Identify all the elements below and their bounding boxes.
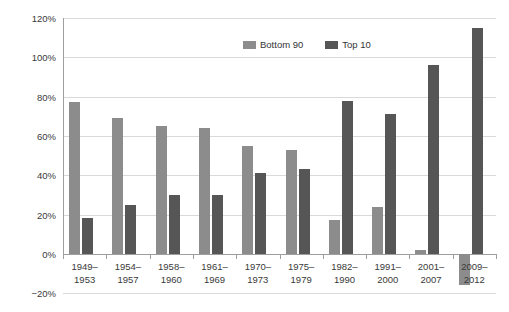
- x-tick-label-line: 1953: [63, 273, 106, 286]
- x-tick-label: 2009–2012: [453, 260, 496, 286]
- bar-top-10: [342, 101, 353, 254]
- x-axis-tick: [280, 254, 281, 259]
- x-tick-label: 2001–2007: [409, 260, 452, 286]
- x-tick-label: 1961–1969: [193, 260, 236, 286]
- bar-group: [280, 18, 323, 293]
- y-tick-label: 80%: [8, 92, 56, 103]
- bar-group: [193, 18, 236, 293]
- y-tick-label: 0%: [8, 249, 56, 260]
- x-tick-label-line: 2001–: [409, 260, 452, 273]
- bar-bottom-90: [199, 128, 210, 254]
- x-axis-tick: [150, 254, 151, 259]
- bar-top-10: [428, 65, 439, 254]
- bar-chart: 120% 100% 80% 60% 40% 20% 0% −20% Bottom…: [0, 0, 509, 312]
- y-tick-label: 100%: [8, 52, 56, 63]
- y-tick-label: 120%: [8, 13, 56, 24]
- bar-group: [106, 18, 149, 293]
- x-tick-label-line: 2000: [366, 273, 409, 286]
- x-tick-label-line: 2007: [409, 273, 452, 286]
- x-axis-tick: [366, 254, 367, 259]
- bar-group: [323, 18, 366, 293]
- x-axis-tick: [453, 254, 454, 259]
- x-tick-label: 1975–1979: [280, 260, 323, 286]
- x-tick-label: 1949–1953: [63, 260, 106, 286]
- x-tick-label-line: 1975–: [280, 260, 323, 273]
- y-tick-label: −20%: [8, 288, 56, 299]
- bar-top-10: [472, 28, 483, 254]
- bar-series-layer: [63, 18, 496, 293]
- x-tick-label-line: 1969: [193, 273, 236, 286]
- bar-bottom-90: [286, 150, 297, 254]
- bar-top-10: [255, 173, 266, 254]
- x-tick-label: 1982–1990: [323, 260, 366, 286]
- bar-top-10: [299, 169, 310, 253]
- x-tick-label-line: 1973: [236, 273, 279, 286]
- x-tick-label-line: 2012: [453, 273, 496, 286]
- bar-group: [366, 18, 409, 293]
- x-tick-label-line: 1957: [106, 273, 149, 286]
- bar-top-10: [125, 205, 136, 254]
- x-tick-label-line: 2009–: [453, 260, 496, 273]
- bar-top-10: [385, 114, 396, 253]
- x-tick-label-line: 1949–: [63, 260, 106, 273]
- bar-bottom-90: [242, 146, 253, 254]
- bar-group: [150, 18, 193, 293]
- x-tick-label-line: 1961–: [193, 260, 236, 273]
- y-tick-label: 40%: [8, 170, 56, 181]
- x-tick-label-line: 1958–: [150, 260, 193, 273]
- x-axis-tick: [323, 254, 324, 259]
- bar-bottom-90: [415, 250, 426, 254]
- x-axis-tick: [193, 254, 194, 259]
- x-tick-label-line: 1979: [280, 273, 323, 286]
- bar-bottom-90: [329, 220, 340, 253]
- y-tick-label: 20%: [8, 210, 56, 221]
- x-tick-label-line: 1954–: [106, 260, 149, 273]
- bar-group: [63, 18, 106, 293]
- x-tick-label: 1954–1957: [106, 260, 149, 286]
- y-tick-label: 60%: [8, 131, 56, 142]
- bar-group: [236, 18, 279, 293]
- bar-group: [453, 18, 496, 293]
- x-axis-labels: 1949–19531954–19571958–19601961–19691970…: [63, 258, 496, 304]
- bar-top-10: [82, 218, 93, 253]
- x-axis-tick: [496, 254, 497, 259]
- bar-bottom-90: [112, 118, 123, 254]
- x-axis-tick: [236, 254, 237, 259]
- bar-top-10: [169, 195, 180, 254]
- bar-top-10: [212, 195, 223, 254]
- x-tick-label: 1991–2000: [366, 260, 409, 286]
- x-tick-label-line: 1991–: [366, 260, 409, 273]
- bar-bottom-90: [69, 102, 80, 253]
- x-tick-label: 1970–1973: [236, 260, 279, 286]
- x-tick-label: 1958–1960: [150, 260, 193, 286]
- bar-bottom-90: [156, 126, 167, 254]
- bar-bottom-90: [372, 207, 383, 254]
- x-tick-label-line: 1990: [323, 273, 366, 286]
- x-tick-label-line: 1970–: [236, 260, 279, 273]
- x-axis-tick: [106, 254, 107, 259]
- bar-group: [409, 18, 452, 293]
- x-axis-tick: [63, 254, 64, 259]
- x-tick-label-line: 1960: [150, 273, 193, 286]
- x-tick-label-line: 1982–: [323, 260, 366, 273]
- x-axis-tick: [409, 254, 410, 259]
